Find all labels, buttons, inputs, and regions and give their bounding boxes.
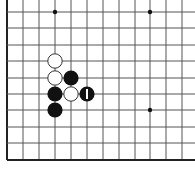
white-stone[interactable] xyxy=(48,54,62,68)
black-stone[interactable] xyxy=(47,86,62,101)
star-point-icon xyxy=(53,10,57,14)
black-stone[interactable] xyxy=(79,86,94,101)
star-point-icon xyxy=(148,108,152,112)
star-point-icon xyxy=(148,10,152,14)
last-move-marker-icon xyxy=(86,89,88,99)
black-stone[interactable] xyxy=(47,102,62,117)
black-stone[interactable] xyxy=(63,70,78,85)
grid-lines xyxy=(7,0,195,160)
white-stone[interactable] xyxy=(64,87,78,101)
go-board[interactable] xyxy=(0,0,195,170)
white-stone[interactable] xyxy=(48,71,62,85)
